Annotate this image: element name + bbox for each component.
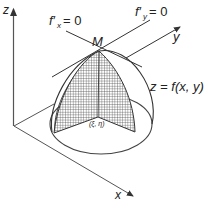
fx-label-eq: = 0 <box>63 13 81 28</box>
surface-label: z = f(x, y) <box>149 79 204 94</box>
y-axis-label: y <box>172 29 181 44</box>
fy-label-main: f′ <box>135 4 142 19</box>
apex-label: M <box>92 34 103 49</box>
fx-label-sub: x <box>56 21 62 30</box>
stationary-point-diagram: z y x f′ x = 0 f′ y = 0 M z = f(x, y) (ξ… <box>0 0 207 208</box>
fx-label-main: f′ <box>49 13 56 28</box>
z-axis-label: z <box>2 3 9 17</box>
base-point-label: (ξ, η) <box>89 120 105 128</box>
x-axis-label: x <box>114 188 122 202</box>
x-axis <box>14 126 133 196</box>
fy-label-eq: = 0 <box>149 4 167 19</box>
base-y-line <box>14 104 54 126</box>
fy-label-sub: y <box>142 12 148 21</box>
y-axis <box>126 27 180 58</box>
